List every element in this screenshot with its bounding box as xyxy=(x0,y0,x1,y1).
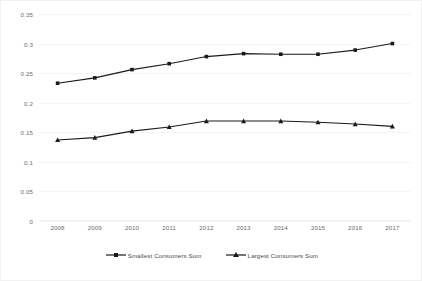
data-point-marker xyxy=(205,55,209,59)
x-axis-tick-label: 2013 xyxy=(224,224,264,231)
x-axis-tick-label: 2015 xyxy=(298,224,338,231)
x-axis-tick-label: 2014 xyxy=(261,224,301,231)
x-axis-tick-label: 2008 xyxy=(38,224,78,231)
x-axis-tick-label: 2011 xyxy=(149,224,189,231)
series-layer xyxy=(39,14,411,221)
legend-label: Largest Consumers Sum xyxy=(248,252,319,259)
y-axis-tick-label: 0.05 xyxy=(3,188,33,195)
series-line-1 xyxy=(58,121,393,140)
series-line-0 xyxy=(58,44,393,84)
gridline xyxy=(39,221,411,222)
plot-area xyxy=(39,14,411,221)
x-axis-tick-label: 2010 xyxy=(112,224,152,231)
y-axis-tick-label: 0.35 xyxy=(3,11,33,18)
triangle-marker-icon xyxy=(226,251,246,259)
legend-label: Smallest Consumers Sum xyxy=(128,252,202,259)
data-point-marker xyxy=(130,68,134,72)
y-axis-tick-label: 0 xyxy=(3,218,33,225)
line-chart: 00.050.10.150.20.250.30.35 2008200920102… xyxy=(0,0,422,281)
y-axis-tick-label: 0.1 xyxy=(3,158,33,165)
y-axis-tick-label: 0.15 xyxy=(3,129,33,136)
x-axis-tick-label: 2017 xyxy=(372,224,412,231)
y-axis-tick-label: 0.25 xyxy=(3,70,33,77)
x-axis-tick-label: 2009 xyxy=(75,224,115,231)
data-point-marker xyxy=(93,76,97,80)
data-point-marker xyxy=(391,42,395,46)
y-axis-tick-label: 0.2 xyxy=(3,99,33,106)
chart-legend: Smallest Consumers SumLargest Consumers … xyxy=(1,251,422,259)
legend-item-1[interactable]: Largest Consumers Sum xyxy=(226,251,319,259)
data-point-marker xyxy=(167,62,171,66)
x-axis-tick-label: 2016 xyxy=(335,224,375,231)
data-point-marker xyxy=(279,52,283,56)
y-axis-tick-label: 0.3 xyxy=(3,40,33,47)
square-marker-icon xyxy=(106,251,126,259)
data-point-marker xyxy=(353,48,357,52)
x-axis-tick-label: 2012 xyxy=(186,224,226,231)
legend-item-0[interactable]: Smallest Consumers Sum xyxy=(106,251,202,259)
data-point-marker xyxy=(56,81,60,85)
data-point-marker xyxy=(242,52,246,56)
data-point-marker xyxy=(316,52,320,56)
